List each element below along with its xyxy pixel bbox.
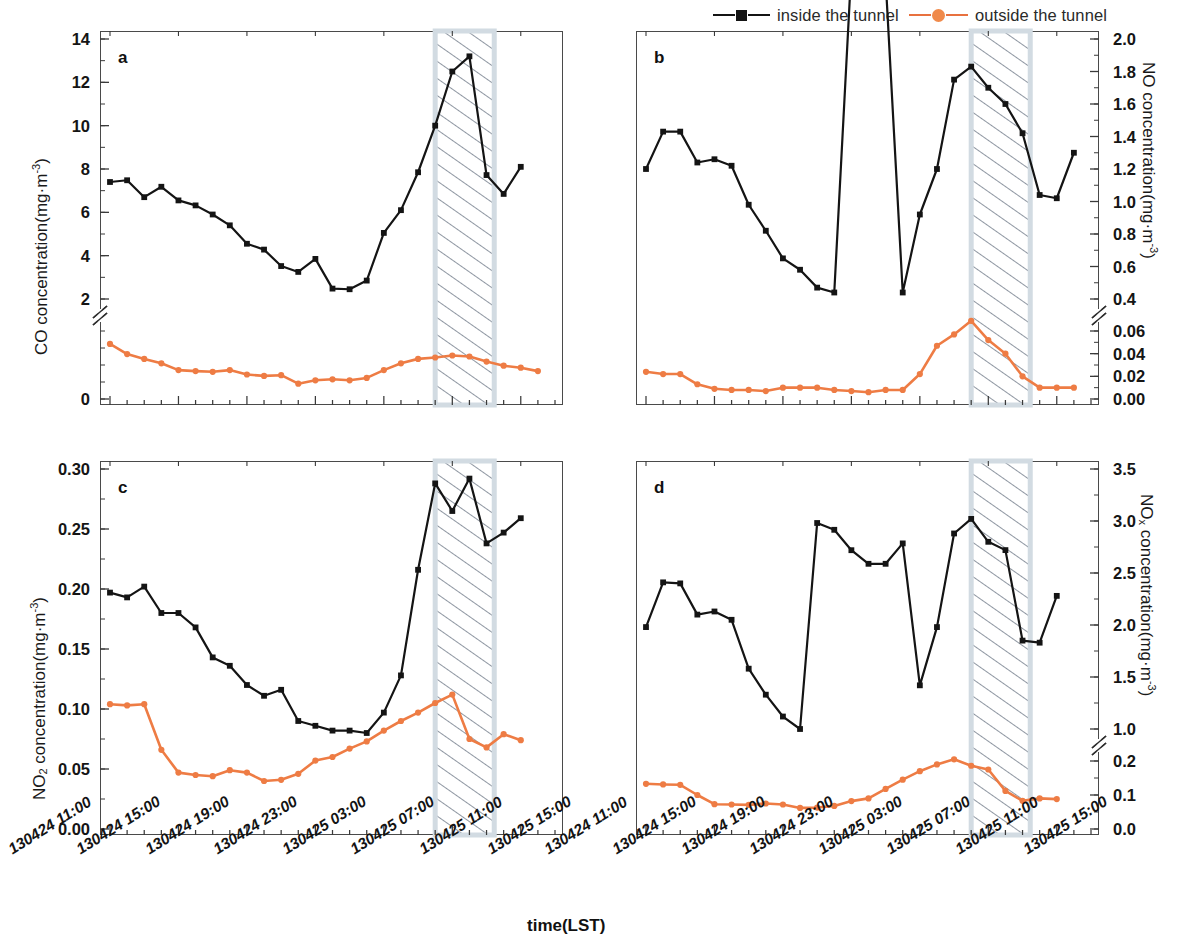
- panel-a: a: [100, 31, 563, 405]
- x-axis-title: time(LST): [527, 916, 605, 936]
- plot-area-b: [636, 31, 1099, 405]
- y-axis-label-d: NOx concentration(mg·m-3): [1136, 494, 1158, 696]
- plot-area-a: [100, 31, 563, 405]
- y-tick-label: 0.4: [1113, 291, 1179, 308]
- legend-label-outside: outside the tunnel: [975, 6, 1107, 25]
- square-marker-icon: [736, 10, 747, 21]
- legend-line-icon: [748, 14, 770, 17]
- legend-entry-inside: inside the tunnel: [713, 6, 899, 25]
- y-tick-label: 0.1: [1113, 787, 1179, 804]
- panel-d: d: [636, 461, 1099, 835]
- legend-line-icon: [946, 14, 968, 17]
- y-tick-label: 1.0: [1113, 721, 1179, 738]
- y-axis-label-c: NO2 concentration(mg·m-3): [28, 597, 50, 800]
- y-tick-label: 0.2: [1113, 753, 1179, 770]
- y-tick-label: 0.30: [24, 461, 90, 478]
- legend-label-inside: inside the tunnel: [777, 6, 899, 25]
- panel-letter-d: d: [654, 478, 664, 498]
- panel-b: b: [636, 31, 1099, 405]
- y-tick-label: 3.5: [1113, 461, 1179, 478]
- y-tick-label: 2.0: [1113, 31, 1179, 48]
- y-tick-label: 14: [24, 31, 90, 48]
- y-tick-label: 12: [24, 74, 90, 91]
- panel-letter-b: b: [654, 48, 664, 68]
- y-axis-label-b: NO concentration(mg·m-3): [1138, 62, 1160, 259]
- y-tick-label: 0: [24, 391, 90, 408]
- plot-area-c: [100, 461, 563, 835]
- plot-area-d: [636, 461, 1099, 835]
- y-tick-label: 0.04: [1113, 345, 1179, 362]
- y-tick-label: 0.00: [1113, 391, 1179, 408]
- y-axis-label-a: CO concentration(mg·m-3): [30, 158, 52, 355]
- y-tick-label: 0.0: [1113, 821, 1179, 838]
- legend: inside the tunnel outside the tunnel: [680, 1, 1140, 29]
- legend-entry-outside: outside the tunnel: [909, 6, 1107, 25]
- panel-c: c: [100, 461, 563, 835]
- circle-marker-icon: [932, 9, 945, 22]
- y-tick-label: 0.06: [1113, 323, 1179, 340]
- y-tick-label: 10: [24, 117, 90, 134]
- y-tick-label: 0.25: [24, 521, 90, 538]
- legend-line-icon: [713, 14, 735, 17]
- y-tick-label: 0.20: [24, 581, 90, 598]
- panel-letter-a: a: [118, 48, 127, 68]
- y-tick-label: 0.02: [1113, 368, 1179, 385]
- panel-letter-c: c: [118, 478, 127, 498]
- legend-line-icon: [909, 14, 931, 17]
- figure-root: inside the tunnel outside the tunnel a 2…: [0, 0, 1187, 951]
- y-tick-label: 0.6: [1113, 258, 1179, 275]
